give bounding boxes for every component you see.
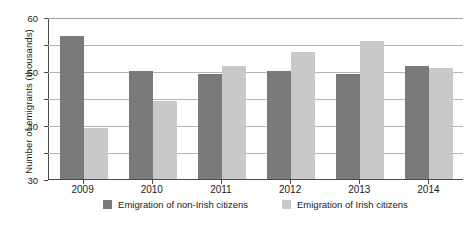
- legend-item-series-1: Emigration of Irish citizens: [282, 199, 408, 210]
- y-tick-label-40: 40: [27, 121, 38, 132]
- y-tick-mark-50: 50: [44, 45, 48, 46]
- x-axis-label-2013: 2013: [348, 184, 370, 195]
- y-tick-mark-0: 0: [44, 180, 48, 181]
- bar-2012-series-0: [267, 71, 291, 179]
- bar-2011-series-0: [198, 74, 222, 179]
- x-axis-label-2014: 2014: [417, 184, 439, 195]
- plot-area: 0102030405060: [48, 18, 463, 180]
- bar-2010-series-0: [129, 71, 153, 179]
- y-tick-mark-20: 20: [44, 126, 48, 127]
- y-tick-mark-60: 60: [44, 18, 48, 19]
- y-tick-mark-30: 30: [44, 99, 48, 100]
- legend-label-series-1: Emigration of Irish citizens: [297, 199, 408, 210]
- bar-2014-series-0: [405, 66, 429, 179]
- legend-label-series-0: Emigration of non-Irish citizens: [118, 199, 248, 210]
- bars-group: [49, 18, 463, 179]
- y-axis-title: Number of emigrants (thousands): [23, 9, 34, 194]
- legend-item-series-0: Emigration of non-Irish citizens: [103, 199, 248, 210]
- x-axis-line: [48, 179, 463, 180]
- bar-2014-series-1: [429, 68, 453, 179]
- bar-2009-series-0: [60, 36, 84, 179]
- legend-swatch-icon-series-1: [282, 200, 291, 209]
- y-tick-label-60: 60: [27, 13, 38, 24]
- x-axis-label-2010: 2010: [141, 184, 163, 195]
- x-axis-label-2009: 2009: [71, 184, 93, 195]
- y-tick-label-50: 50: [27, 67, 38, 78]
- legend-swatch-icon-series-0: [103, 200, 112, 209]
- y-tick-mark-40: 40: [44, 72, 48, 73]
- x-axis-label-2012: 2012: [279, 184, 301, 195]
- bar-2013-series-1: [360, 41, 384, 179]
- y-tick-mark-10: 10: [44, 153, 48, 154]
- y-tick-label-30: 30: [27, 175, 38, 186]
- bar-2009-series-1: [84, 128, 108, 179]
- bar-chart: Number of emigrants (thousands) 01020304…: [0, 0, 469, 227]
- bar-2013-series-0: [336, 74, 360, 179]
- x-axis-label-2011: 2011: [210, 184, 232, 195]
- bar-2012-series-1: [291, 52, 315, 179]
- bar-2011-series-1: [222, 66, 246, 179]
- bar-2010-series-1: [153, 101, 177, 179]
- chart-legend: Emigration of non-Irish citizensEmigrati…: [48, 199, 463, 210]
